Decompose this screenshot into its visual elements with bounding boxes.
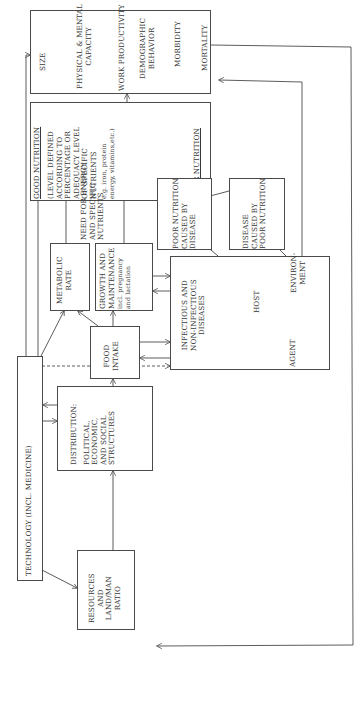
disease-caused-by-poor-nutrition-box: DISEASE CAUSED BY POOR NUTRITION [229,178,285,250]
infectious-diseases-box: INFECTIOUS AND NON-INFECTIOUS DISEASES H… [170,256,330,370]
growth-maintenance-box: GROWTH AND MAINTENANCE incl. pregnancy a… [95,243,153,311]
need-for-energy-label: NEED FOR ENERGY AND SPECIFIC NUTRIENTS [80,163,106,240]
metabolic-rate-box: METABOLIC RATE [50,243,90,311]
technology-text: TECHNOLOGY (INCL. MEDICINE) [25,445,34,576]
outcome-mortality: MORTALITY [201,25,210,71]
good-nutrition-label: GOOD NUTRITION [33,127,42,199]
poor-nutrition-caused-by-disease-box: POOR NUTRITION CAUSED BY DISEASE [157,178,212,250]
resources-text: RESOURCES AND LAND/MAN RATIO [88,573,122,623]
agent-label: AGENT [289,339,298,367]
food-intake-box: FOOD INTAKE [90,326,140,379]
infectious-diseases-title: INFECTIOUS AND NON-INFECTIOUS DISEASES [181,279,207,351]
technology-box: TECHNOLOGY (INCL. MEDICINE) [17,356,43,581]
outcome-morbidity: MORBIDITY [174,21,183,67]
poor-nutrition-caused-by-disease-text: POOR NUTRITION CAUSED BY DISEASE [172,178,198,249]
outcome-size: SIZE [39,53,48,71]
resources-box: RESOURCES AND LAND/MAN RATIO [77,550,135,630]
food-intake-text: FOOD INTAKE [103,341,120,371]
disease-caused-by-poor-nutrition-text: DISEASE CAUSED BY POOR NUTRITION [242,178,268,249]
outcome-work-productivity: WORK PRODUCTIVITY [118,4,127,91]
distribution-text: DISTRIBUTION: POLITICAL, ECONOMIC, AND S… [70,404,117,465]
host-label: HOST [253,291,262,313]
growth-maintenance-text: GROWTH AND MAINTENANCE incl. pregnancy a… [99,248,132,309]
outcome-demographic-behavior: DEMOGRAPHIC BEHAVIOR [139,18,156,79]
outcomes-box: SIZE PHYSICAL & MENTAL CAPACITY WORK PRO… [30,10,211,94]
environment-label: ENVIRON- MENT [290,253,307,293]
outcome-physical-mental: PHYSICAL & MENTAL CAPACITY [76,4,93,89]
distribution-box: DISTRIBUTION: POLITICAL, ECONOMIC, AND S… [57,386,153,471]
metabolic-rate-text: METABOLIC RATE [56,256,73,304]
